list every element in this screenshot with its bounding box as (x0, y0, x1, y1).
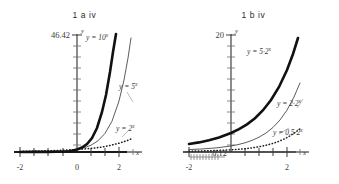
panel-a-label-5x-exp: x (134, 81, 138, 87)
panel-a-label-5x-text: y = 5 (118, 82, 135, 91)
panel-a-plot: 46.42 y x -2 0 2 y = 10x y = 5x (0, 0, 169, 184)
panel-b-label-2-2x-exp: x (298, 98, 302, 104)
svg-text:y = 5·2x: y = 5·2x (246, 46, 272, 56)
panel-b-label-05-2x-exp: x (299, 127, 303, 133)
svg-text:y = 2x: y = 2x (115, 123, 135, 133)
panel-b-label-5-2x-exp: x (268, 46, 272, 52)
figure-panel-pair: 1 a iv (0, 0, 339, 184)
panel-b-xtick-neg2: -2 (186, 163, 193, 172)
panel-a-xtick-neg2: -2 (17, 163, 24, 172)
panel-a-y-axis-label: y (80, 27, 85, 35)
panel-a-xtick-2: 2 (117, 163, 121, 172)
panel-b-label-05-2x: y = 0.5·2x (272, 127, 303, 137)
panel-a-label-2x-text: y = 2 (115, 124, 132, 133)
chart-panel-a: 1 a iv (0, 0, 169, 184)
panel-a-label-2x-exp: x (131, 123, 135, 129)
panel-a-label-10x: y = 10x (85, 32, 109, 42)
panel-b-label-05-2x-text: y = 0.5·2 (272, 128, 300, 137)
panel-b-y-low-label: 0.12 (212, 148, 227, 158)
panel-a-label-2x: y = 2x (115, 123, 135, 137)
chart-panel-b: 1 b iv (169, 0, 338, 184)
svg-text:y = 2·2x: y = 2·2x (276, 98, 302, 108)
panel-b-label-5-2x: y = 5·2x (246, 46, 272, 56)
panel-a-y-max-label: 46.42 (51, 30, 70, 40)
svg-text:y = 10x: y = 10x (85, 32, 109, 42)
panel-b-xtick-2: 2 (285, 163, 289, 172)
panel-b-label-2-2x-text: y = 2·2 (276, 99, 299, 108)
panel-a-label-10x-exp: x (105, 32, 109, 38)
panel-a-xtick-zero: 0 (75, 163, 79, 172)
panel-b-y-max-label: 20 (216, 30, 225, 40)
panel-b-label-5-2x-text: y = 5·2 (246, 47, 269, 56)
panel-b-y-axis-label: y (234, 27, 239, 35)
panel-a-curve-5x (20, 38, 131, 152)
panel-b-x-axis-label: x (302, 149, 307, 157)
panel-a-x-axis-label: x (135, 149, 140, 157)
panel-a-label-10x-text: y = 10 (85, 33, 106, 42)
svg-text:y = 5x: y = 5x (118, 81, 138, 91)
panel-b-plot: 20 0.12 y x -2 2 y = 5·2x y = 2·2x (169, 0, 338, 184)
svg-text:y = 0.5·2x: y = 0.5·2x (272, 127, 303, 137)
panel-b-label-2-2x: y = 2·2x (276, 98, 303, 108)
panel-a-curve-10x (20, 34, 116, 152)
